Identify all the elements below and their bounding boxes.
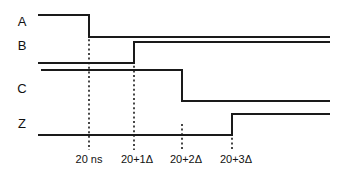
timing-diagram-canvas: ABCZ 20 ns20+1Δ20+2Δ20+3Δ [0, 0, 347, 175]
signal-label-c: C [17, 81, 26, 96]
signal-waveforms [38, 15, 330, 135]
waveform-z [38, 114, 330, 135]
timing-diagram: ABCZ 20 ns20+1Δ20+2Δ20+3Δ [0, 0, 347, 175]
signal-name-labels: ABCZ [17, 14, 26, 131]
time-marker-lines [89, 30, 232, 150]
time-label-1: 20+1Δ [121, 153, 154, 165]
time-label-2: 20+2Δ [170, 153, 203, 165]
signal-label-b: B [18, 38, 27, 53]
signal-label-a: A [18, 14, 27, 29]
time-label-3: 20+3Δ [220, 153, 253, 165]
signal-label-z: Z [18, 116, 26, 131]
time-label-0: 20 ns [76, 153, 103, 165]
waveform-c [41, 70, 330, 101]
waveform-b [38, 42, 330, 63]
time-axis-labels: 20 ns20+1Δ20+2Δ20+3Δ [76, 153, 253, 165]
waveform-a [38, 15, 330, 37]
